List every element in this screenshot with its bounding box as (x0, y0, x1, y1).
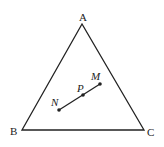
point-label-n: N (50, 96, 59, 108)
triangle-abc (22, 24, 144, 130)
point-m (98, 82, 102, 86)
point-n (57, 108, 61, 112)
vertex-label-b: B (10, 125, 17, 137)
vertex-label-c: C (147, 126, 154, 138)
point-label-p: P (76, 82, 84, 94)
point-label-m: M (90, 70, 101, 82)
vertex-label-a: A (79, 11, 87, 23)
geometry-diagram: A B C M P N (0, 0, 164, 147)
